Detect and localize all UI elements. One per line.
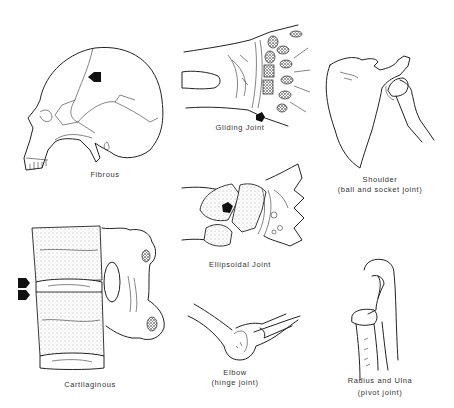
- arrow-icon: [18, 278, 30, 288]
- sublabel-radius-ulna: (pivot joint): [340, 388, 420, 398]
- arrow-icon: [88, 72, 101, 82]
- label-fibrous: Fibrous: [70, 170, 140, 180]
- label-ellipsoidal: Ellipsoidal Joint: [195, 260, 285, 270]
- arrow-icon: [18, 290, 30, 300]
- sublabel-elbow: (hinge joint): [200, 378, 270, 388]
- label-gliding: Gliding Joint: [200, 123, 280, 133]
- panel-fibrous: Fibrous: [0, 0, 170, 200]
- label-cartilaginous: Cartilaginous: [45, 380, 135, 390]
- panel-radius-ulna: Radius and Ulna (pivot joint): [320, 230, 454, 408]
- panel-elbow: Elbow (hinge joint): [170, 290, 320, 408]
- panel-ellipsoidal: Ellipsoidal Joint: [170, 150, 310, 270]
- label-radius-ulna: Radius and Ulna: [330, 376, 430, 386]
- elbow-illustration: [170, 290, 320, 408]
- panel-shoulder: Shoulder (ball and socket joint): [300, 30, 454, 210]
- sublabel-shoulder: (ball and socket joint): [320, 185, 440, 195]
- wrist-ellipsoidal-illustration: [170, 150, 310, 270]
- panel-cartilaginous: Cartilaginous: [0, 220, 180, 408]
- label-shoulder: Shoulder: [340, 175, 420, 185]
- panel-gliding: Gliding Joint: [170, 0, 310, 150]
- arrow-icon: [256, 112, 265, 122]
- label-elbow: Elbow: [205, 368, 265, 378]
